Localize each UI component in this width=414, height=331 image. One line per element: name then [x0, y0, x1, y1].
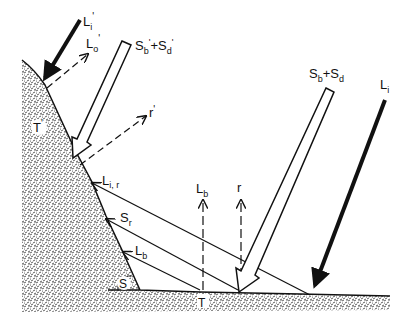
label-s-angle: S — [119, 277, 127, 291]
label-li-r: Li, r — [102, 173, 119, 190]
terrain-slope — [22, 60, 390, 312]
arrow-li-prime — [45, 20, 80, 78]
label-lo-prime: Lo' — [86, 33, 100, 54]
label-r-prime: r' — [149, 104, 155, 120]
label-li: Li — [380, 77, 389, 95]
label-li-prime: Li' — [83, 11, 94, 32]
arrow-sb-sd — [236, 88, 334, 292]
label-sr: Sr — [120, 210, 132, 228]
label-sb-sd-prime: Sb'+Sd' — [135, 37, 174, 56]
radiation-diagram: T' S T Li' Lo' Sb'+Sd' r' Li, r Sr Lb Lb… — [0, 0, 414, 331]
label-r-up: r — [237, 180, 242, 195]
label-lb-up: Lb — [196, 181, 208, 199]
diagram-svg: T' S T Li' Lo' Sb'+Sd' r' Li, r Sr Lb Lb… — [0, 0, 414, 331]
label-sb-sd: Sb+Sd — [309, 66, 344, 84]
label-t-ground: T — [198, 296, 206, 310]
arrow-sb-sd-prime — [72, 41, 131, 158]
arrow-li — [315, 100, 385, 285]
arrow-lo-prime — [47, 54, 88, 88]
